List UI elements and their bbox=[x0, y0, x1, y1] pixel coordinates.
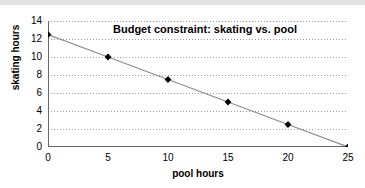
data-line bbox=[48, 35, 348, 148]
data-point-marker bbox=[225, 99, 232, 106]
x-tick-label: 5 bbox=[96, 153, 120, 163]
chart-figure: Budget constraint: skating vs. pool skat… bbox=[0, 0, 365, 188]
data-point-marker bbox=[285, 121, 292, 128]
y-tick-label: 6 bbox=[20, 88, 42, 98]
y-tick-label: 14 bbox=[20, 16, 42, 26]
chart-plot-svg bbox=[48, 21, 348, 147]
y-tick-label: 0 bbox=[20, 142, 42, 152]
data-point-marker bbox=[165, 76, 172, 83]
y-tick-label: 12 bbox=[20, 34, 42, 44]
gridlines bbox=[48, 22, 348, 148]
y-tick-label: 10 bbox=[20, 52, 42, 62]
top-band bbox=[0, 0, 365, 5]
x-tick-label: 15 bbox=[216, 153, 240, 163]
x-tick-label: 20 bbox=[276, 153, 300, 163]
y-tick-label: 2 bbox=[20, 124, 42, 134]
y-axis-label: skating hours bbox=[10, 13, 21, 103]
x-axis-label: pool hours bbox=[48, 168, 348, 179]
y-tick-label: 8 bbox=[20, 70, 42, 80]
x-tick-label: 0 bbox=[36, 153, 60, 163]
data-point-marker bbox=[105, 54, 112, 61]
data-point-marker bbox=[48, 31, 51, 38]
x-tick-label: 25 bbox=[336, 153, 360, 163]
y-tick-label: 4 bbox=[20, 106, 42, 116]
plot-area bbox=[48, 21, 348, 147]
budget-constraint-line bbox=[48, 35, 348, 148]
x-tick-label: 10 bbox=[156, 153, 180, 163]
tick-marks bbox=[48, 22, 348, 148]
